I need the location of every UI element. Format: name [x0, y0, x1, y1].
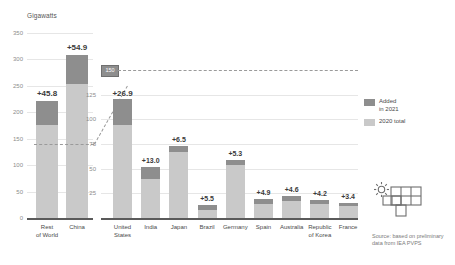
y-tick-right-75: 75 [76, 141, 96, 147]
bar-segment-total-right-2 [169, 152, 188, 218]
bar-segment-total-left-0 [36, 125, 58, 218]
bar-segment-total-right-6 [282, 201, 301, 218]
category-label-right-6: Australia [277, 224, 306, 232]
y-tick-left-150: 150 [0, 136, 23, 142]
bar-value-right-2: +6.5 [160, 136, 197, 143]
bar-right-0 [113, 99, 132, 218]
bar-value-right-8: +3.4 [330, 193, 367, 200]
bar-value-left-1: +54.9 [55, 43, 99, 52]
bar-right-3 [198, 205, 217, 218]
legend-item-1[interactable]: 2020 total [364, 118, 405, 126]
zoom-marker-150: 150 [101, 65, 119, 77]
bar-segment-total-right-5 [254, 204, 273, 218]
y-tick-left-0: 0 [0, 215, 23, 221]
bar-segment-added-left-0 [36, 101, 58, 125]
y-tick-left-50: 50 [0, 189, 23, 195]
legend-label-1: 2020 total [379, 118, 405, 126]
bar-segment-total-right-0 [113, 125, 132, 218]
bar-value-right-3: +5.5 [189, 195, 226, 202]
bar-segment-added-left-1 [66, 55, 88, 84]
bar-segment-total-right-3 [198, 210, 217, 218]
y-tick-right-100: 100 [76, 116, 96, 122]
category-label-right-8: France [334, 224, 363, 232]
category-label-right-1: India [136, 224, 165, 232]
bar-value-right-0: +26.9 [104, 89, 141, 98]
category-label-right-7: Republic of Korea [305, 224, 334, 239]
bar-value-right-1: +13.0 [132, 157, 169, 164]
gridline-right-75 [101, 144, 358, 145]
y-tick-left-350: 350 [0, 30, 23, 36]
y-tick-right-125: 125 [76, 92, 96, 98]
category-label-right-3: Brazil [193, 224, 222, 232]
bar-segment-total-left-1 [66, 84, 88, 218]
y-tick-left-200: 200 [0, 109, 23, 115]
y-tick-right-50: 50 [76, 166, 96, 172]
zoom-callout-top-line [118, 70, 358, 71]
source-note: Source: based on preliminary data from I… [372, 233, 454, 247]
legend-label-0: Added in 2021 [379, 98, 399, 113]
bar-segment-total-right-7 [310, 204, 329, 218]
legend-swatch-0 [364, 99, 375, 106]
category-label-right-2: Japan [164, 224, 193, 232]
bar-right-7 [310, 200, 329, 219]
bar-left-0 [36, 101, 58, 218]
bar-right-8 [339, 203, 358, 218]
left-panel-baseline [27, 218, 93, 220]
bar-right-4 [226, 160, 245, 218]
right-panel-baseline [101, 218, 358, 220]
bar-right-6 [282, 196, 301, 218]
bar-segment-total-right-4 [226, 165, 245, 218]
bar-segment-total-right-8 [339, 206, 358, 218]
legend-item-0[interactable]: Added in 2021 [364, 98, 399, 113]
category-label-right-5: Spain [249, 224, 278, 232]
y-tick-left-250: 250 [0, 83, 23, 89]
bar-segment-total-right-1 [141, 179, 160, 218]
bar-segment-added-right-1 [141, 167, 160, 180]
bar-right-2 [169, 146, 188, 219]
gridline-right-100 [101, 119, 358, 120]
category-label-right-4: Germany [221, 224, 250, 232]
category-label-left-1: China [58, 224, 96, 232]
legend: Added in 20212020 total [364, 98, 452, 138]
y-tick-left-100: 100 [0, 162, 23, 168]
bar-segment-added-right-0 [113, 99, 132, 126]
bar-value-left-0: +45.8 [25, 89, 69, 98]
bar-right-1 [141, 167, 160, 218]
solar-panel-icon [372, 180, 428, 226]
bar-value-right-4: +5.3 [217, 150, 254, 157]
gridline-left-350 [27, 33, 93, 34]
y-tick-right-25: 25 [76, 190, 96, 196]
category-label-right-0: United States [108, 224, 137, 239]
y-axis-title: Gigawatts [27, 12, 57, 19]
chart-root: Gigawatts 050100150200250300350 +45.8+54… [0, 0, 455, 265]
legend-swatch-1 [364, 119, 375, 126]
y-tick-left-300: 300 [0, 56, 23, 62]
bar-right-5 [254, 199, 273, 218]
